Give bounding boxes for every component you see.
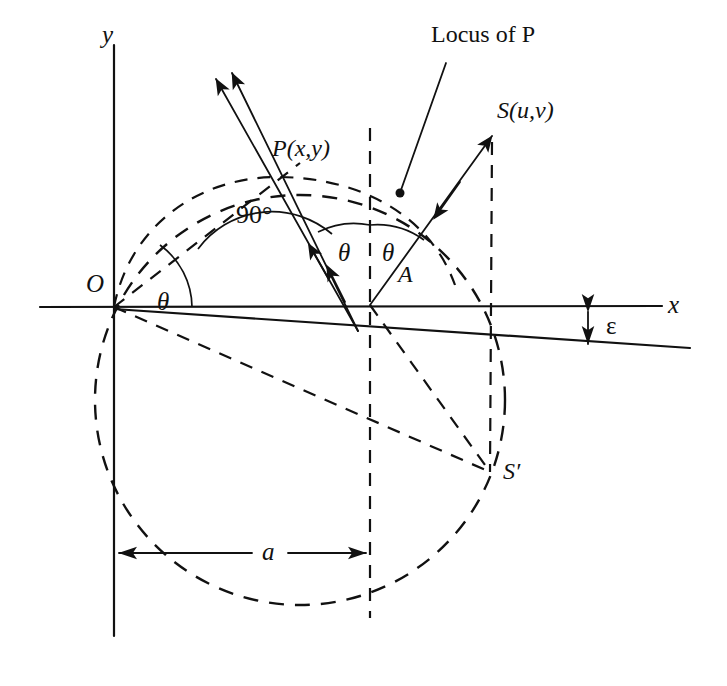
x-axis-label: x [668,292,679,317]
locus-leader-line [401,63,446,190]
epsilon-label: ε [606,313,617,338]
chord-o-sprime [114,307,490,472]
figure-root: y x O Locus of P P(x,y) S(u,v) S′ A 90° … [0,0,727,686]
epsilon-slant-line [114,309,690,348]
diagram-canvas [0,0,727,686]
origin-label: O [86,271,104,296]
x-axis [40,306,662,307]
locus-point-dot [396,189,405,198]
point-s-label: S(u,v) [497,98,554,122]
theta-left-label: θ [338,240,350,265]
point-p-label: P(x,y) [272,136,330,160]
dimension-a-label: a [262,539,275,564]
y-axis-label: y [102,22,113,47]
point-a-label: A [398,262,413,286]
theta-right-label: θ [382,240,394,265]
theta-left-arc [318,223,370,232]
theta-origin-label: θ [157,289,169,314]
locus-of-p-label: Locus of P [431,22,535,46]
ray-a-to-s [370,136,492,305]
big-dashed-circle [95,195,505,605]
ray-o-through-p [114,163,300,307]
right-angle-label: 90° [236,202,272,228]
ray-a-to-s-midarrow [438,182,460,213]
point-s-prime-label: S′ [503,459,520,483]
